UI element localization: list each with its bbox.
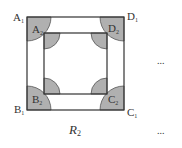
label-D1: D1	[127, 10, 138, 23]
sector-C2	[91, 78, 107, 94]
caption-R2: R2	[68, 122, 81, 138]
sector-A2	[44, 33, 60, 49]
label-C1: C1	[127, 106, 137, 119]
sector-D2	[91, 33, 107, 49]
sector-B2	[44, 78, 60, 94]
square-sectors-diagram: A1 D1 B1 C1 A2 D2 B2 C2 R2 ... ...	[0, 0, 182, 148]
ellipsis-bottom: ...	[157, 125, 165, 136]
label-A1: A1	[13, 11, 24, 24]
inner-sectors	[44, 33, 107, 94]
ellipsis-top: ...	[157, 55, 165, 66]
label-B1: B1	[14, 103, 24, 116]
